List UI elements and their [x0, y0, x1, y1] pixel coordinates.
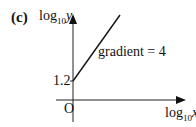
x-axis-label: log10x: [165, 105, 196, 123]
y-axis-label: log10y: [39, 8, 72, 26]
intercept-label: 1.2: [53, 73, 71, 89]
x-axis-arrow-icon: [176, 96, 186, 104]
origin-label: O: [64, 101, 74, 117]
part-label: (c): [11, 9, 28, 26]
gradient-annotation: gradient = 4: [98, 44, 166, 60]
